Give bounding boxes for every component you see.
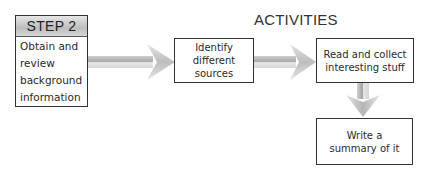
activity-read-collect: Read and collect interesting stuff (316, 38, 414, 83)
step-description-line: Obtain and (20, 38, 87, 55)
activity-text-line: summary of it (330, 142, 400, 155)
activity-text-line: Write a (330, 129, 400, 142)
activity-identify-sources: Identify different sources (174, 38, 254, 83)
step-description: Obtain and review background information (16, 37, 87, 106)
arrow-right-2 (254, 44, 318, 80)
activity-text-line: sources (175, 67, 253, 80)
activities-title: ACTIVITIES (254, 11, 338, 28)
step-box: STEP 2 Obtain and review background info… (15, 15, 88, 107)
step-description-line: information (20, 89, 87, 106)
step-label: STEP 2 (16, 16, 87, 37)
arrow-down-3 (346, 83, 380, 119)
activity-text-line: interesting stuff (323, 61, 406, 74)
activity-text-line: Read and collect (323, 48, 406, 61)
step-description-line: review (20, 55, 87, 72)
step-description-line: background (20, 72, 87, 89)
activity-text-line: Identify different (175, 41, 253, 67)
arrow-right-1 (87, 44, 177, 80)
activity-write-summary: Write a summary of it (316, 118, 413, 165)
